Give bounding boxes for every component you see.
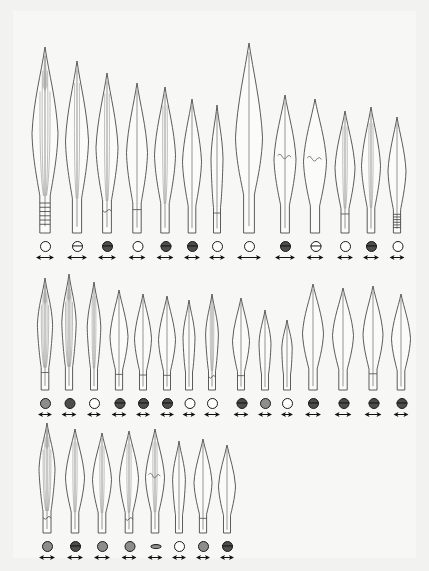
- spearhead-caption-6: [184, 239, 200, 261]
- spearhead-caption-9: [275, 239, 295, 261]
- section-row-24: [281, 396, 293, 410]
- spearhead-drawing-4: [123, 83, 152, 235]
- section-row-7: [209, 239, 225, 253]
- spearhead-drawing-36: [215, 445, 240, 535]
- spearhead-caption-1: [36, 239, 54, 261]
- cross-section-symbol-2: [72, 241, 83, 252]
- section-row-5: [157, 239, 174, 253]
- spearhead-drawing-5: [151, 87, 180, 235]
- spearhead-drawing-20: [178, 300, 201, 392]
- spearhead-drawing-27: [359, 286, 387, 392]
- scale-arrow-25: [305, 411, 321, 418]
- spearhead-caption-32: [122, 539, 137, 561]
- cross-section-symbol-14: [40, 398, 51, 409]
- section-row-11: [337, 239, 353, 253]
- cross-section-symbol-28: [396, 398, 407, 409]
- spearhead-drawing-1: [28, 47, 62, 235]
- scale-arrow-13: [390, 254, 405, 261]
- scale-arrow-16: [87, 411, 101, 418]
- section-row-8: [237, 239, 261, 253]
- cross-section-symbol-6: [187, 241, 198, 252]
- section-row-28: [394, 396, 409, 410]
- scale-arrow-12: [363, 254, 379, 261]
- spearhead-caption-29: [39, 539, 55, 561]
- spearhead-caption-26: [335, 396, 352, 418]
- scale-arrow-11: [337, 254, 353, 261]
- spearhead-caption-11: [337, 239, 353, 261]
- spearhead-drawing-24: [277, 320, 298, 392]
- spearhead-drawing-3: [92, 73, 122, 235]
- spearhead-drawing-13: [384, 117, 410, 235]
- cross-section-symbol-5: [160, 241, 171, 252]
- scale-arrow-14: [38, 411, 52, 418]
- cross-section-symbol-16: [89, 398, 100, 409]
- section-row-31: [94, 539, 110, 553]
- scale-arrow-9: [275, 254, 295, 261]
- cross-section-symbol-8: [244, 241, 255, 252]
- spearhead-caption-31: [94, 539, 110, 561]
- spearhead-caption-33: [148, 539, 163, 561]
- spearhead-drawing-33: [142, 429, 169, 535]
- scale-arrow-36: [220, 554, 234, 561]
- plate-paper-field: [13, 11, 416, 558]
- scale-arrow-28: [394, 411, 409, 418]
- spearhead-drawing-14: [32, 278, 59, 392]
- spearhead-drawing-9: [270, 95, 300, 235]
- spearhead-caption-23: [258, 396, 272, 418]
- section-row-9: [275, 239, 295, 253]
- section-row-34: [172, 539, 186, 553]
- scale-arrow-32: [122, 554, 137, 561]
- scale-arrow-23: [258, 411, 272, 418]
- cross-section-symbol-15: [64, 398, 75, 409]
- section-row-25: [305, 396, 321, 410]
- spearhead-caption-7: [209, 239, 225, 261]
- cross-section-symbol-9: [280, 241, 291, 252]
- spearhead-caption-36: [220, 539, 234, 561]
- spearhead-drawing-31: [89, 433, 116, 535]
- cross-section-symbol-29: [42, 541, 53, 552]
- scale-arrow-20: [183, 411, 196, 418]
- section-row-26: [335, 396, 352, 410]
- scale-arrow-2: [67, 254, 87, 261]
- cross-section-symbol-13: [392, 241, 403, 252]
- cross-section-symbol-36: [222, 541, 233, 552]
- spearhead-caption-4: [129, 239, 146, 261]
- section-row-4: [129, 239, 146, 253]
- section-row-13: [390, 239, 405, 253]
- section-row-6: [184, 239, 200, 253]
- cross-section-symbol-20: [184, 398, 195, 409]
- spearhead-drawing-16: [82, 282, 107, 392]
- spearhead-caption-19: [160, 396, 174, 418]
- spearhead-caption-16: [87, 396, 101, 418]
- spearhead-caption-13: [390, 239, 405, 261]
- cross-section-symbol-30: [70, 541, 81, 552]
- spearhead-caption-24: [281, 396, 293, 418]
- spearhead-caption-35: [196, 539, 210, 561]
- spearhead-drawing-23: [254, 310, 277, 392]
- scale-arrow-26: [335, 411, 352, 418]
- cross-section-symbol-32: [124, 541, 135, 552]
- spearhead-drawing-29: [33, 423, 61, 535]
- spearhead-drawing-11: [331, 111, 359, 235]
- cross-section-symbol-26: [338, 398, 349, 409]
- section-row-22: [234, 396, 249, 410]
- cross-section-symbol-31: [97, 541, 108, 552]
- scale-arrow-27: [365, 411, 382, 418]
- section-row-27: [365, 396, 382, 410]
- scale-arrow-34: [172, 554, 186, 561]
- spearhead-caption-25: [305, 396, 321, 418]
- spearhead-drawing-12: [358, 107, 385, 235]
- spearhead-caption-14: [38, 396, 52, 418]
- scale-arrow-6: [184, 254, 200, 261]
- spearhead-caption-30: [67, 539, 83, 561]
- cross-section-symbol-33: [150, 544, 161, 549]
- scale-arrow-30: [67, 554, 83, 561]
- section-row-30: [67, 539, 83, 553]
- section-row-19: [160, 396, 174, 410]
- spearhead-drawing-10: [300, 99, 331, 235]
- spearhead-drawing-26: [329, 288, 358, 392]
- spearhead-drawing-18: [131, 294, 156, 392]
- cross-section-symbol-23: [260, 398, 271, 409]
- scale-arrow-3: [98, 254, 116, 261]
- cross-section-symbol-1: [40, 241, 51, 252]
